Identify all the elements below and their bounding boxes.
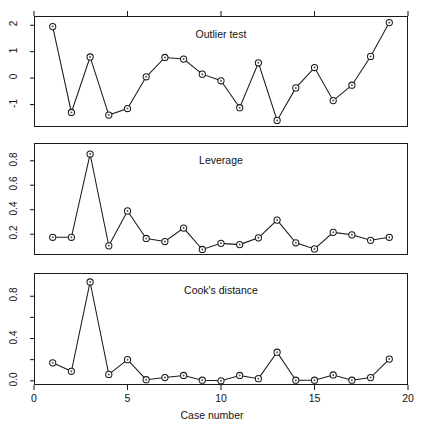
y-tick-label: 0.8 [8, 146, 19, 172]
panel-leverage: Leverage [0, 140, 424, 270]
y-tick-label: 0.8 [8, 282, 19, 308]
plot-area-leverage [0, 140, 424, 270]
panel-outlier-test: Outlier test [0, 0, 424, 140]
x-tick-label: 10 [206, 392, 236, 404]
y-tick-label: 0.6 [8, 171, 19, 197]
diagnostic-plot-figure: Outlier test Leverage Cook's distance Ca… [0, 0, 424, 435]
y-tick-label: 0.4 [8, 195, 19, 221]
y-tick-label: 0.2 [8, 220, 19, 246]
y-tick-label: -1 [8, 90, 19, 116]
x-axis-title: Case number [0, 409, 424, 421]
y-tick-label: 0.4 [8, 324, 19, 350]
x-tick-label: 15 [300, 392, 330, 404]
x-tick-label: 0 [19, 392, 49, 404]
x-tick-label: 20 [393, 392, 423, 404]
plot-area-outlier-test [0, 0, 424, 140]
panel-cooks-distance: Cook's distance Case number [0, 270, 424, 435]
y-tick-label: 0 [8, 64, 19, 90]
y-tick-label: 2 [8, 11, 19, 37]
y-tick-label: 1 [8, 37, 19, 63]
x-tick-label: 5 [113, 392, 143, 404]
y-tick-label: 0.0 [8, 366, 19, 392]
